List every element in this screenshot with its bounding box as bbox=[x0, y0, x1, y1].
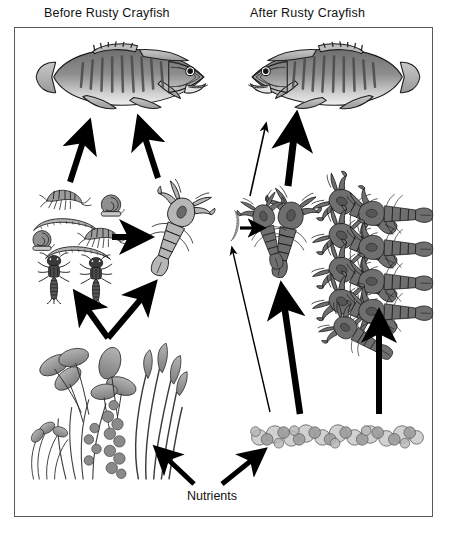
node-crayfish-rusty-few bbox=[234, 183, 325, 283]
node-rocks-after bbox=[251, 425, 424, 448]
node-fish-after bbox=[248, 41, 420, 108]
food-web-figure: Before Rusty Crayfish After Rusty Crayfi… bbox=[0, 0, 450, 537]
after-panel-content bbox=[222, 41, 434, 484]
nutrients-label: Nutrients bbox=[187, 489, 237, 503]
node-invertebrates-before bbox=[33, 190, 129, 306]
node-crayfish-native bbox=[128, 174, 220, 286]
link-plants-to-crayfish-native bbox=[108, 286, 152, 338]
node-plants-before bbox=[29, 343, 187, 479]
link-inverts-to-fish-after bbox=[250, 124, 266, 196]
link-rocks-to-crayfish-rusty bbox=[282, 290, 300, 414]
link-rocks-to-inverts-after bbox=[232, 248, 270, 412]
link-nutrients-to-rocks bbox=[222, 452, 262, 484]
link-crayfish-to-fish-after bbox=[288, 120, 296, 186]
node-crayfish-rusty-swarm bbox=[306, 165, 434, 377]
links-before bbox=[70, 122, 194, 484]
link-crayfish-to-fish-before bbox=[140, 122, 158, 178]
node-fish-before bbox=[36, 41, 208, 108]
before-panel-content bbox=[29, 41, 221, 484]
link-inverts-to-fish-before bbox=[70, 126, 88, 182]
diagram-canvas bbox=[0, 0, 450, 537]
